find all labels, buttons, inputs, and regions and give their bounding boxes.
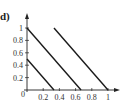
x-tick-label: 0.2 [38, 93, 48, 102]
x-tick-label: 0.6 [71, 93, 81, 102]
chart: 0.20.40.60.810.20.40.60.81 0 [0, 0, 124, 110]
y-tick-label: 0.4 [13, 61, 23, 70]
series [27, 28, 108, 90]
series-line2 [27, 28, 81, 90]
x-tick-label: 0.4 [54, 93, 64, 102]
y-tick-label: 1 [19, 24, 23, 33]
series-line1 [27, 59, 54, 90]
origin-label: 0 [21, 90, 25, 99]
y-tick-label: 0.8 [13, 36, 23, 45]
y-tick-label: 0.6 [13, 49, 23, 58]
y-axis-arrow-icon [25, 13, 29, 19]
x-tick-label: 1 [106, 93, 110, 102]
series-line3 [54, 28, 108, 90]
x-tick-label: 0.8 [87, 93, 97, 102]
x-axis-arrow-icon [114, 88, 120, 92]
y-tick-label: 0.2 [13, 74, 23, 83]
